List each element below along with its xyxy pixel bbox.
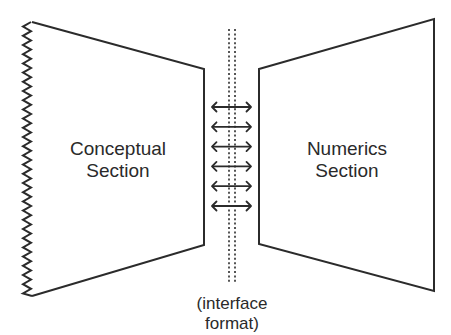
interface-arrows xyxy=(212,103,251,211)
conceptual-section-outline xyxy=(32,22,204,296)
double-arrow xyxy=(212,182,251,191)
double-arrow xyxy=(212,103,251,112)
double-arrow xyxy=(212,142,251,151)
conceptual-section-label-line2: Section xyxy=(86,160,149,181)
interface-strip xyxy=(229,29,235,284)
conceptual-section-label-line1: Conceptual xyxy=(70,138,166,159)
numerics-section-label-line2: Section xyxy=(315,160,378,181)
zigzag-left-edge xyxy=(23,22,32,296)
double-arrow xyxy=(212,122,251,131)
double-arrow xyxy=(212,162,251,171)
double-arrow xyxy=(212,202,251,211)
interface-diagram: Conceptual Section Numerics Section (int… xyxy=(0,0,451,335)
interface-format-label-line1: (interface xyxy=(197,294,268,313)
conceptual-section-shape xyxy=(23,22,204,296)
interface-format-label-line2: format) xyxy=(205,314,259,333)
numerics-section-label-line1: Numerics xyxy=(307,138,387,159)
